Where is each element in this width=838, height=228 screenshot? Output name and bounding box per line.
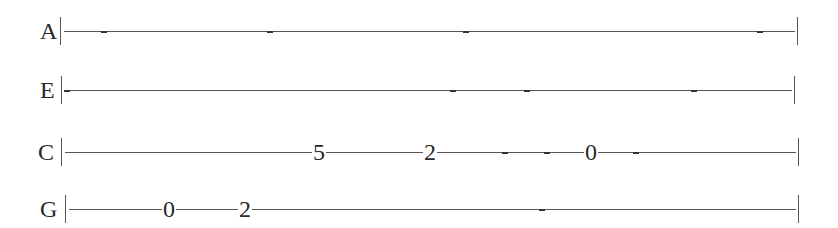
tab-string-c: C520 <box>0 132 838 172</box>
rest-dash <box>539 209 545 211</box>
string-line <box>69 209 796 210</box>
rest-dash <box>267 31 273 33</box>
string-label: C <box>38 140 54 164</box>
string-label: G <box>40 197 57 221</box>
rest-dash <box>64 90 70 92</box>
fret-number: 2 <box>423 140 437 164</box>
rest-dash <box>502 152 508 154</box>
fret-number: 2 <box>238 197 252 221</box>
rest-dash <box>450 90 456 92</box>
tab-string-g: G02 <box>0 189 838 228</box>
bar-line-end <box>798 138 799 166</box>
bar-line-start <box>61 138 62 166</box>
string-line <box>64 31 795 32</box>
rest-dash <box>544 152 550 154</box>
bar-line-start <box>60 17 61 45</box>
bar-line-start <box>65 195 66 223</box>
fret-number: 0 <box>584 140 598 164</box>
rest-dash <box>633 152 639 154</box>
string-label: A <box>40 19 57 43</box>
fret-number: 0 <box>162 197 176 221</box>
tab-string-e: E <box>0 70 838 110</box>
bar-line-end <box>797 17 798 45</box>
bar-line-start <box>61 76 62 104</box>
tab-string-a: A <box>0 11 838 51</box>
rest-dash <box>463 31 469 33</box>
bar-line-end <box>798 195 799 223</box>
rest-dash <box>524 90 530 92</box>
bar-line-end <box>794 76 795 104</box>
rest-dash <box>757 31 763 33</box>
rest-dash <box>101 31 107 33</box>
string-line <box>65 90 792 91</box>
fret-number: 5 <box>312 140 326 164</box>
string-label: E <box>40 78 55 102</box>
rest-dash <box>691 90 697 92</box>
